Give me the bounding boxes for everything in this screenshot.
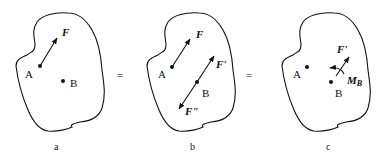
- caption-c: c: [326, 141, 331, 152]
- point-a: [305, 65, 309, 69]
- point-b-label: B: [335, 87, 342, 99]
- equals-sign-1: =: [117, 69, 123, 81]
- force-f-arrow: [172, 39, 190, 67]
- point-a-label: A: [158, 68, 166, 80]
- panel-a: F A B a: [16, 13, 104, 152]
- panel-b: F F' F" A B b: [147, 13, 235, 152]
- force-f-prime-label: F': [336, 43, 347, 55]
- force-f-prime-label: F': [215, 58, 226, 70]
- couple-moment-arrow: [330, 68, 344, 74]
- force-f-label: F: [195, 28, 204, 40]
- point-b-label: B: [202, 87, 209, 99]
- point-b: [61, 79, 65, 83]
- point-b-label: B: [70, 77, 77, 89]
- caption-b: b: [190, 141, 195, 152]
- equals-sign-2: =: [246, 69, 252, 81]
- caption-a: a: [54, 141, 59, 152]
- force-translation-diagram: F A B a = F F' F" A B b = F' MB A B c: [0, 0, 381, 162]
- force-f-arrow: [40, 38, 57, 66]
- moment-mb-label: MB: [346, 74, 363, 88]
- point-b: [329, 80, 333, 84]
- point-a-label: A: [293, 68, 301, 80]
- point-a-label: A: [25, 68, 33, 80]
- force-f-label: F: [61, 26, 70, 38]
- force-f-prime-arrow: [197, 56, 214, 82]
- panel-c: F' MB A B c: [282, 13, 370, 152]
- force-f-double-prime-label: F": [184, 105, 198, 117]
